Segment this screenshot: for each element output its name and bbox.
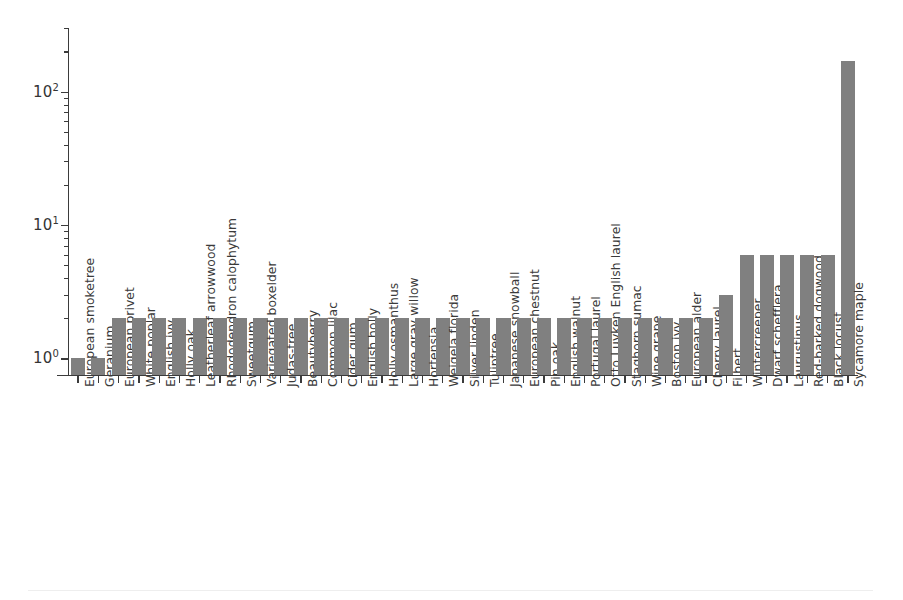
x-axis-tick <box>462 375 463 383</box>
y-axis-minor-tick <box>64 246 69 247</box>
y-axis-minor-tick <box>64 112 69 113</box>
x-axis-tick <box>705 375 706 383</box>
x-axis-tick-label: Sycamore maple <box>852 282 866 387</box>
y-axis-minor-tick <box>64 238 69 239</box>
y-axis-tick-label: 101 <box>33 216 59 234</box>
x-axis-tick <box>300 375 301 383</box>
x-axis-tick <box>624 375 625 383</box>
y-axis-minor-tick <box>64 98 69 99</box>
x-axis-tick <box>77 375 78 383</box>
y-axis-minor-tick <box>64 145 69 146</box>
x-axis-tick <box>402 375 403 383</box>
y-axis-tick-exponent: 1 <box>52 215 59 226</box>
x-axis-tick <box>685 375 686 383</box>
x-axis-tick <box>746 375 747 383</box>
x-axis-tick <box>645 375 646 383</box>
x-axis-tick <box>766 375 767 383</box>
x-axis-tick <box>604 375 605 383</box>
x-axis-tick <box>219 375 220 383</box>
x-axis-tick <box>503 375 504 383</box>
x-axis-tick <box>381 375 382 383</box>
x-axis-tick <box>98 375 99 383</box>
y-axis-minor-tick <box>64 295 69 296</box>
y-axis-minor-tick <box>64 265 69 266</box>
y-axis-tick-label: 100 <box>33 349 59 367</box>
y-axis-major-tick <box>61 225 68 226</box>
x-axis-tick <box>786 375 787 383</box>
x-axis-tick <box>118 375 119 383</box>
x-axis-tick <box>665 375 666 383</box>
x-axis-tick <box>564 375 565 383</box>
y-axis-minor-tick <box>64 231 69 232</box>
y-axis-minor-tick <box>64 105 69 106</box>
x-axis-tick <box>442 375 443 383</box>
x-axis-tick <box>341 375 342 383</box>
x-axis-tick <box>807 375 808 383</box>
y-axis-minor-tick <box>64 161 69 162</box>
x-axis-tick <box>523 375 524 383</box>
y-axis-major-tick <box>61 92 68 93</box>
y-axis-tick-exponent: 0 <box>52 348 59 359</box>
x-axis-tick <box>543 375 544 383</box>
y-axis-minor-tick <box>64 121 69 122</box>
x-axis-tick <box>321 375 322 383</box>
y-axis-tick-exponent: 2 <box>52 82 59 93</box>
y-axis-minor-tick <box>64 28 69 29</box>
scan-artifact-line <box>28 590 873 591</box>
y-axis-minor-tick <box>64 51 69 52</box>
x-axis-tick <box>726 375 727 383</box>
x-axis-tick <box>138 375 139 383</box>
plot-area: 100101102European smoketreeGeraniumEurop… <box>68 28 858 375</box>
x-axis-tick <box>199 375 200 383</box>
x-axis-tick <box>280 375 281 383</box>
x-axis-tick <box>361 375 362 383</box>
x-axis-tick <box>483 375 484 383</box>
y-axis-minor-tick <box>64 255 69 256</box>
x-axis-tick <box>260 375 261 383</box>
y-axis-tick-label: 102 <box>33 83 59 101</box>
y-axis-minor-tick <box>64 132 69 133</box>
x-axis-tick <box>584 375 585 383</box>
scan-artifact-strip <box>0 584 903 600</box>
x-axis-tick <box>847 375 848 383</box>
y-axis-minor-tick <box>64 185 69 186</box>
y-axis-minor-tick <box>64 278 69 279</box>
y-axis-major-tick <box>61 358 68 359</box>
x-axis-tick <box>422 375 423 383</box>
x-axis-tick <box>827 375 828 383</box>
x-axis-tick <box>179 375 180 383</box>
x-axis-tick <box>159 375 160 383</box>
x-axis-tick <box>240 375 241 383</box>
bar-chart-figure: 100101102European smoketreeGeraniumEurop… <box>0 0 903 600</box>
y-axis-minor-tick <box>64 318 69 319</box>
